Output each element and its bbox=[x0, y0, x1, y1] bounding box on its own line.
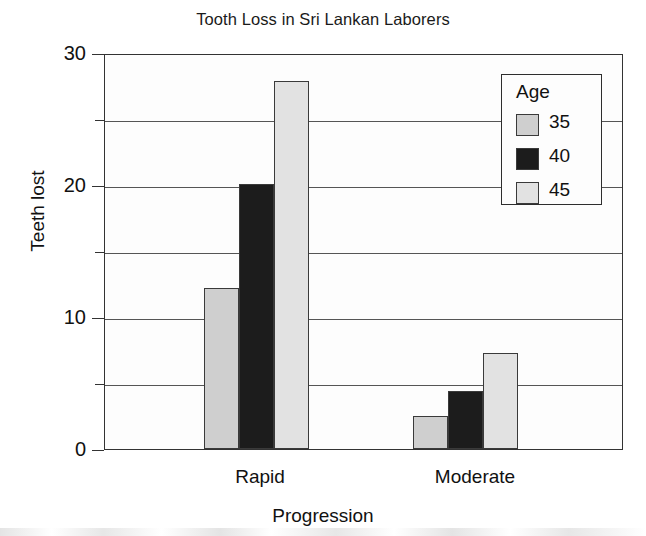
scan-artifact bbox=[0, 528, 646, 536]
legend-label-40: 40 bbox=[549, 145, 570, 167]
gridline-10 bbox=[105, 319, 622, 320]
y-axis-tick-label-30: 30 bbox=[30, 42, 86, 65]
bar-rapid-age35[interactable] bbox=[204, 288, 239, 449]
bar-moderate-age35[interactable] bbox=[413, 416, 448, 449]
y-tick-5 bbox=[95, 384, 104, 385]
y-tick-15 bbox=[95, 252, 104, 253]
gridline-5 bbox=[105, 385, 622, 386]
legend-label-45: 45 bbox=[549, 179, 570, 201]
legend-label-35: 35 bbox=[549, 111, 570, 133]
gridline-15 bbox=[105, 253, 622, 254]
bar-moderate-age40[interactable] bbox=[448, 391, 483, 449]
y-axis-tick-label-0: 0 bbox=[30, 438, 86, 461]
y-tick-25 bbox=[95, 120, 104, 121]
y-tick-10 bbox=[92, 318, 104, 319]
x-axis-tick-label-rapid: Rapid bbox=[190, 466, 330, 488]
bar-rapid-age40[interactable] bbox=[239, 184, 274, 449]
bar-moderate-age45[interactable] bbox=[483, 353, 518, 449]
legend-swatch-35 bbox=[516, 114, 539, 136]
legend-title: Age bbox=[516, 81, 550, 103]
x-axis-tick-label-moderate: Moderate bbox=[395, 466, 555, 488]
chart-figure: Tooth Loss in Sri Lankan Laborers 30 20 … bbox=[0, 0, 646, 536]
y-tick-30 bbox=[92, 54, 104, 55]
legend-swatch-45 bbox=[516, 182, 539, 204]
legend-swatch-40 bbox=[516, 148, 539, 170]
y-tick-20 bbox=[92, 186, 104, 187]
bar-rapid-age45[interactable] bbox=[274, 81, 309, 449]
x-axis-title: Progression bbox=[0, 505, 646, 527]
chart-title: Tooth Loss in Sri Lankan Laborers bbox=[0, 10, 646, 29]
y-axis-title: Teeth lost bbox=[27, 111, 49, 311]
legend: Age 35 40 45 bbox=[501, 74, 602, 205]
y-tick-0 bbox=[92, 450, 104, 451]
